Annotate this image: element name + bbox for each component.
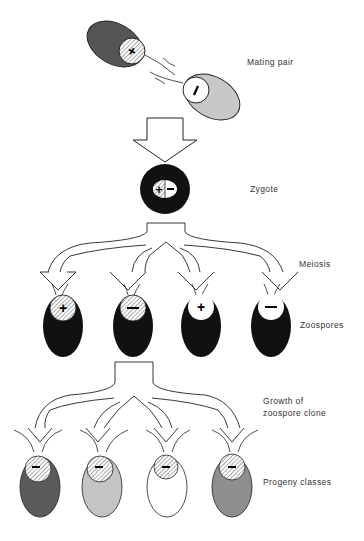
zoospore-1: + xyxy=(43,284,83,357)
zygote: + xyxy=(140,164,190,214)
progeny-1 xyxy=(14,430,62,517)
zoospores-row: + + xyxy=(43,284,291,357)
label-mating-pair: Mating pair xyxy=(247,57,293,68)
label-growth-line2: zoospore clone xyxy=(263,408,326,419)
plus-sign: + xyxy=(155,183,162,197)
life-cycle-diagram: + + xyxy=(0,0,364,541)
progeny-4 xyxy=(212,430,258,517)
meiosis-arrows xyxy=(40,223,298,290)
progeny-row xyxy=(14,430,258,517)
flagellum xyxy=(145,55,175,75)
label-progeny: Progeny classes xyxy=(263,477,331,488)
flagellum xyxy=(150,72,183,83)
plus-sign: + xyxy=(59,300,67,316)
flagellum xyxy=(163,58,175,66)
label-zoospores: Zoospores xyxy=(300,320,344,331)
progeny-2 xyxy=(80,430,128,517)
label-meiosis: Meiosis xyxy=(299,259,331,270)
zoospore-4 xyxy=(251,284,291,357)
mating-pair: + xyxy=(79,12,248,130)
progeny-3 xyxy=(146,430,190,517)
growth-arrows xyxy=(28,362,244,442)
plus-sign: + xyxy=(197,299,205,315)
zoospore-3: + xyxy=(181,284,221,357)
label-growth-line1: Growth of xyxy=(263,396,303,407)
arrow-down-icon xyxy=(133,118,197,162)
diagram-canvas: + + xyxy=(0,0,364,541)
flagellum xyxy=(155,78,165,84)
zoospore-2 xyxy=(113,284,153,357)
label-zygote: Zygote xyxy=(250,184,278,195)
